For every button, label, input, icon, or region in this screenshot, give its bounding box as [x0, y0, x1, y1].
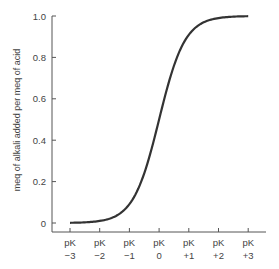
x-tick-label-bottom: −3 [65, 250, 76, 261]
x-tick-label-bottom: +3 [243, 250, 254, 261]
y-axis-title: meq of alkali added per meq of acid [12, 49, 22, 192]
x-tick-label-top: pK [213, 237, 225, 248]
titration-chart: 00.20.40.60.81.0 pK−3pK−2pK−1pK0pK+1pK+2… [0, 0, 279, 269]
x-tick-label-bottom: +2 [213, 250, 224, 261]
y-tick-label: 0.8 [33, 52, 46, 63]
x-tick-label-top: pK [64, 237, 76, 248]
y-axis: 00.20.40.60.81.0 [33, 11, 56, 233]
x-tick-label-top: pK [183, 237, 195, 248]
x-tick-label-top: pK [94, 237, 106, 248]
y-tick-label: 0 [41, 218, 46, 229]
x-tick-label-bottom: −1 [124, 250, 135, 261]
x-tick-label-bottom: +1 [183, 250, 194, 261]
x-axis: pK−3pK−2pK−1pK0pK+1pK+2pK+3 [52, 228, 266, 261]
x-tick-label-bottom: −2 [94, 250, 105, 261]
x-tick-label-top: pK [242, 237, 254, 248]
x-tick-label-top: pK [124, 237, 136, 248]
y-tick-label: 0.4 [33, 135, 46, 146]
y-tick-label: 1.0 [33, 11, 46, 22]
y-tick-label: 0.6 [33, 93, 46, 104]
titration-curve-line [70, 16, 248, 223]
y-tick-label: 0.2 [33, 176, 46, 187]
x-tick-label-top: pK [153, 237, 165, 248]
x-tick-label-bottom: 0 [156, 250, 161, 261]
